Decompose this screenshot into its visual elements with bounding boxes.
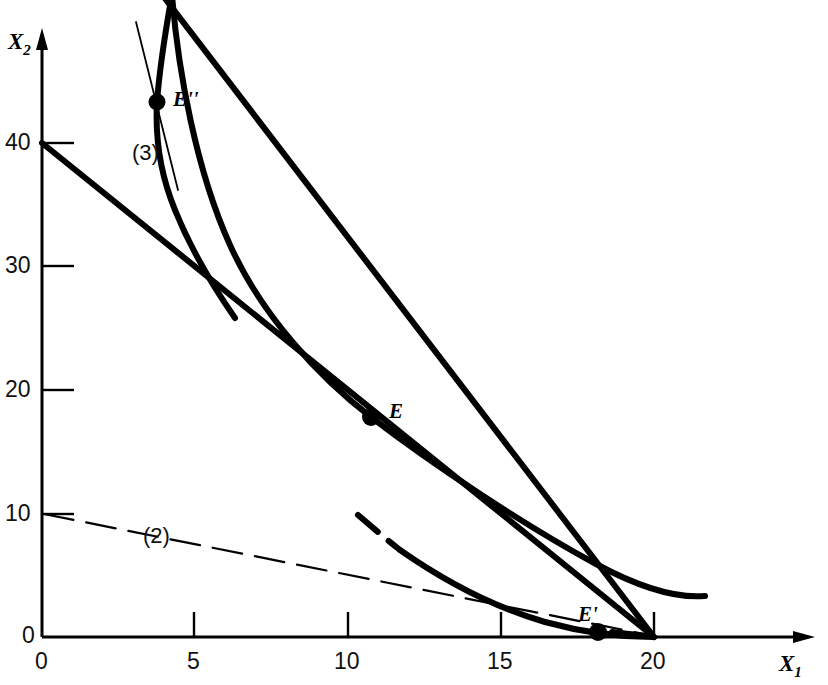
x-axis-arrowhead bbox=[793, 631, 815, 643]
y-tick-label-0: 0 bbox=[22, 624, 35, 647]
indifference-curve-2-accent bbox=[612, 632, 646, 636]
point-label-E-double-prime: E'' bbox=[173, 89, 199, 110]
x-tick-label-15: 15 bbox=[487, 650, 513, 673]
y-axis-arrowhead bbox=[36, 28, 48, 50]
x-tick-label-5: 5 bbox=[187, 650, 200, 673]
y-axis-ticks bbox=[42, 143, 74, 514]
curves-group bbox=[42, 0, 705, 637]
point-label-E: E bbox=[389, 401, 403, 422]
point-label-E-prime: E' bbox=[578, 604, 598, 625]
indifference-curve-figure: X2 X1 40 30 20 10 0 0 5 10 15 20 E E' E'… bbox=[0, 0, 828, 685]
annotation-2: (2) bbox=[143, 525, 170, 547]
y-axis-title: X2 bbox=[8, 30, 31, 58]
annotation-3: (3) bbox=[132, 142, 159, 164]
point-E-double-prime bbox=[149, 94, 166, 111]
y-tick-label-40: 40 bbox=[5, 131, 31, 154]
budget-line-1 bbox=[42, 143, 654, 637]
x-tick-label-20: 20 bbox=[640, 650, 666, 673]
indifference-curve-2-dashed bbox=[358, 515, 400, 550]
data-points-group bbox=[149, 94, 608, 642]
point-E bbox=[362, 408, 380, 426]
indifference-curve-1 bbox=[172, 0, 705, 596]
x-axis-title: X1 bbox=[779, 652, 802, 680]
y-tick-label-30: 30 bbox=[5, 254, 31, 277]
x-tick-label-10: 10 bbox=[334, 650, 360, 673]
plot-svg bbox=[0, 0, 828, 685]
y-tick-label-10: 10 bbox=[5, 502, 31, 525]
y-tick-label-20: 20 bbox=[5, 378, 31, 401]
x-tick-label-0: 0 bbox=[35, 650, 48, 673]
